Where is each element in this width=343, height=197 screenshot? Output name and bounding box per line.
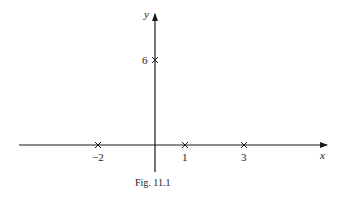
tick-label-1: 1 [182, 151, 188, 163]
tick-label-3: 3 [241, 151, 247, 163]
figure-caption: Fig. 11.1 [135, 177, 170, 188]
tick-label-y6: 6 [142, 54, 148, 66]
x-axis-label: x [319, 149, 325, 161]
figure-canvas: x y −2 1 3 6 Fig. 11.1 [0, 0, 343, 197]
tick-label-neg2: −2 [92, 151, 104, 163]
y-axis-label: y [143, 8, 149, 20]
